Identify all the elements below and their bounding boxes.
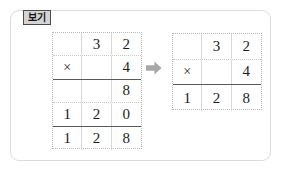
grid-row: ×4 <box>53 56 141 79</box>
grid-cell-digit: 1 <box>53 103 82 125</box>
grid-row: 32 <box>173 34 261 60</box>
multiplication-sign: × <box>53 56 82 78</box>
grid-cell-digit: 2 <box>202 85 231 111</box>
grid-row: 128 <box>53 127 141 150</box>
worksheet-screenshot: 보기 32×48120128 32×4128 <box>0 0 282 172</box>
grid-cell-digit: 8 <box>232 85 261 111</box>
grid-cell-empty <box>53 33 82 55</box>
expanded-multiplication-grid: 32×48120128 <box>52 32 142 149</box>
compact-multiplication-grid: 32×4128 <box>172 33 262 110</box>
grid-cell-digit: 8 <box>112 127 141 150</box>
grid-row: 120 <box>53 103 141 126</box>
arrow-right-icon <box>146 61 162 75</box>
grid-row: ×4 <box>173 60 261 86</box>
grid-cell-empty <box>173 34 202 59</box>
grid-row: 128 <box>173 85 261 111</box>
grid-cell-digit: 2 <box>232 34 261 59</box>
multiplication-sign: × <box>173 60 202 85</box>
grid-cell-digit: 2 <box>82 103 111 125</box>
grid-cell-digit: 1 <box>173 85 202 111</box>
grid-cell-digit: 1 <box>53 127 82 150</box>
grid-cell-digit: 3 <box>82 33 111 55</box>
grid-cell-empty <box>82 80 111 102</box>
example-label-tab: 보기 <box>23 10 51 25</box>
grid-cell-digit: 4 <box>232 60 261 85</box>
example-label-text: 보기 <box>28 13 46 23</box>
grid-row: 32 <box>53 33 141 56</box>
grid-cell-digit: 2 <box>112 33 141 55</box>
grid-cell-digit: 2 <box>82 127 111 150</box>
grid-cell-empty <box>82 56 111 78</box>
grid-cell-digit: 0 <box>112 103 141 125</box>
grid-row: 8 <box>53 80 141 103</box>
grid-cell-digit: 8 <box>112 80 141 102</box>
grid-cell-empty <box>202 60 231 85</box>
grid-cell-empty <box>53 80 82 102</box>
grid-cell-digit: 4 <box>112 56 141 78</box>
grid-cell-digit: 3 <box>202 34 231 59</box>
